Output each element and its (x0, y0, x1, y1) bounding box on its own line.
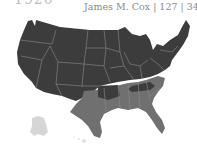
region-alaska[interactable] (30, 116, 48, 136)
region-hawaii[interactable] (73, 136, 86, 143)
us-map (0, 0, 197, 158)
